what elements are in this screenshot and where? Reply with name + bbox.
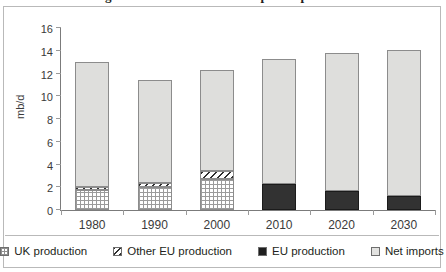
bar-segment-net-imports-2010[interactable] [262,59,296,184]
y-axis-tick-label: 16 [41,23,53,35]
y-axis-title: mb/d [14,95,26,119]
bar-segment-net-imports-1990[interactable] [138,80,172,182]
y-axis-tick-label: 2 [47,182,53,194]
legend-item-label: UK production [14,245,87,257]
legend-item-label: Other EU production [127,245,232,257]
bar-segment-uk-production-2000[interactable] [200,179,234,210]
legend-item-eu-production[interactable]: EU production [258,245,345,257]
legend-item-net-imports[interactable]: Net imports [371,245,444,257]
x-axis-tick [435,210,436,215]
y-axis-tick-label: 6 [47,137,53,149]
plot-area: 0246810121416 198019902000201020202030 [60,28,435,211]
bar-stack-1990[interactable] [138,28,172,210]
bar-segment-net-imports-2020[interactable] [325,53,359,191]
x-axis-tick [310,210,311,215]
bar-stack-2000[interactable] [200,28,234,210]
bar-segment-other-eu-production-2000[interactable] [200,171,234,178]
x-axis-tick [186,210,187,215]
figure-frame: mb/d 0246810121416 198019902000201020202… [3,6,441,268]
legend-swatch-icon-other-eu-production [113,247,122,256]
y-axis-tick [56,141,61,142]
legend-item-uk-production[interactable]: UK production [0,245,87,257]
bar-stack-1980[interactable] [75,28,109,210]
x-axis-tick [373,210,374,215]
y-axis-tick [56,50,61,51]
y-axis-tick [56,27,61,28]
clipped-figure-title: Figure: EU oil balance and import depend… [0,0,446,5]
x-axis-label-2030: 2030 [390,218,417,232]
bar-segment-uk-production-1990[interactable] [138,187,172,210]
bar-segment-net-imports-2000[interactable] [200,70,234,171]
legend-swatch-icon-uk-production [0,247,9,256]
bar-segment-uk-production-1980[interactable] [75,190,109,210]
bar-segment-eu-production-2010[interactable] [262,184,296,210]
x-axis-label-2000: 2000 [203,218,230,232]
y-axis-tick-label: 10 [41,91,53,103]
bar-segment-net-imports-2030[interactable] [387,50,421,196]
x-axis-label-2020: 2020 [328,218,355,232]
legend-item-label: Net imports [385,245,444,257]
y-axis-tick-label: 14 [41,46,53,58]
bar-stack-2030[interactable] [387,28,421,210]
y-axis-tick [56,118,61,119]
y-axis-tick-label: 0 [47,205,53,217]
bar-segment-eu-production-2030[interactable] [387,196,421,210]
y-axis-tick-label: 8 [47,114,53,126]
chart-legend: UK productionOther EU productionEU produ… [5,235,439,266]
y-axis-tick [56,186,61,187]
figure-title-text: Figure: EU oil balance and import depend… [93,0,352,4]
y-axis-tick-label: 12 [41,69,53,81]
y-axis-tick [56,95,61,96]
bar-segment-net-imports-1980[interactable] [75,62,109,187]
x-axis-label-1980: 1980 [79,218,106,232]
bar-segment-other-eu-production-1980[interactable] [75,187,109,190]
legend-item-label: EU production [272,245,345,257]
legend-item-other-eu-production[interactable]: Other EU production [113,245,232,257]
y-axis-tick-label: 4 [47,160,53,172]
bar-segment-eu-production-2020[interactable] [325,191,359,210]
legend-swatch-icon-net-imports [371,247,380,256]
bar-segment-other-eu-production-1990[interactable] [138,183,172,188]
legend-swatch-icon-eu-production [258,247,267,256]
bar-stack-2020[interactable] [325,28,359,210]
bar-stack-2010[interactable] [262,28,296,210]
y-axis-tick [56,164,61,165]
x-axis-tick [61,210,62,215]
y-axis-tick [56,73,61,74]
x-axis-tick [248,210,249,215]
x-axis-label-1990: 1990 [141,218,168,232]
x-axis-tick [123,210,124,215]
x-axis-label-2010: 2010 [266,218,293,232]
